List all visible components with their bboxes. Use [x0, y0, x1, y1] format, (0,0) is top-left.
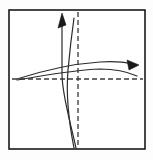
coordinate-sketch-svg: [0, 0, 153, 160]
figure-root: Hand-drawn coordinate sketch with two cu…: [0, 0, 153, 160]
